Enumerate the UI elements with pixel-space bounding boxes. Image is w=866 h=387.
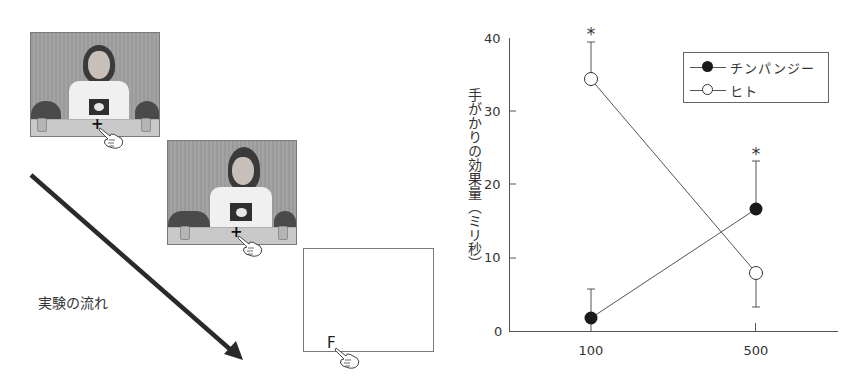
series-chimpanzee bbox=[585, 161, 763, 325]
chart-legend: チンパンジー ヒト bbox=[683, 52, 829, 103]
significance-asterisk: * bbox=[752, 144, 761, 164]
x-tick-label: 100 bbox=[579, 343, 604, 358]
filled-circle-marker-icon bbox=[684, 57, 730, 77]
y-tick-label: 40 bbox=[484, 31, 501, 46]
y-tick-label: 10 bbox=[484, 250, 501, 265]
x-tick-label: 500 bbox=[744, 343, 769, 358]
y-tick-label: 30 bbox=[484, 104, 501, 119]
y-tick-label: 20 bbox=[484, 177, 501, 192]
data-point-human-500 bbox=[750, 267, 763, 280]
data-point-chimp-500 bbox=[750, 203, 763, 216]
open-circle-marker-icon bbox=[684, 80, 730, 100]
significance-asterisk: * bbox=[587, 24, 596, 44]
legend-item-chimpanzee: チンパンジー bbox=[684, 57, 815, 77]
y-tick-label: 0 bbox=[494, 324, 502, 339]
data-point-chimp-100 bbox=[585, 312, 598, 325]
legend-label: ヒト bbox=[730, 81, 758, 100]
y-axis-label: 手がかりの効果量（ミリ秒） bbox=[465, 88, 481, 270]
data-point-human-100 bbox=[585, 73, 598, 86]
legend-item-human: ヒト bbox=[684, 80, 758, 100]
legend-label: チンパンジー bbox=[730, 58, 815, 77]
